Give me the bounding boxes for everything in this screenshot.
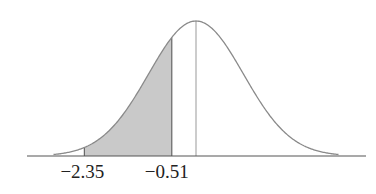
tick-label-upper: −0.51 (145, 161, 189, 182)
tick-label-lower: −2.35 (60, 161, 104, 182)
shaded-area (84, 37, 171, 156)
normal-curve-chart: −2.35−0.51 (0, 0, 376, 194)
